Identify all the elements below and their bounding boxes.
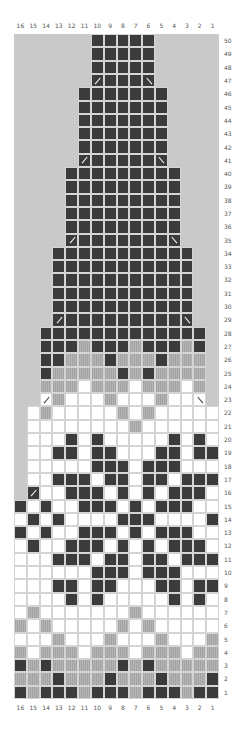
gray-stitch-cell: [40, 619, 53, 632]
no-stitch-cell: [193, 273, 206, 286]
no-stitch-cell: [206, 327, 219, 340]
gray-stitch-cell: [142, 380, 155, 393]
column-number: 2: [193, 702, 206, 714]
white-stitch-cell: [14, 553, 27, 566]
white-stitch-cell: [78, 513, 91, 526]
dark-stitch-cell: [129, 34, 142, 47]
no-stitch-cell: [14, 353, 27, 366]
white-stitch-cell: [104, 593, 117, 606]
dark-stitch-cell: [65, 579, 78, 592]
dark-stitch-cell: [193, 340, 206, 353]
dark-stitch-cell: [117, 61, 130, 74]
gray-stitch-cell: [52, 633, 65, 646]
column-number: 5: [155, 20, 168, 32]
white-stitch-cell: [142, 606, 155, 619]
white-stitch-cell: [206, 406, 219, 419]
dark-stitch-cell: [117, 273, 130, 286]
white-stitch-cell: [142, 393, 155, 406]
row-number: 4: [222, 646, 240, 659]
dark-stitch-cell: [117, 247, 130, 260]
gray-stitch-cell: [78, 367, 91, 380]
no-stitch-cell: [27, 313, 40, 326]
no-stitch-cell: [40, 167, 53, 180]
white-stitch-cell: [193, 566, 206, 579]
dark-stitch-cell: [91, 579, 104, 592]
column-number: 11: [78, 702, 91, 714]
white-stitch-cell: [181, 579, 194, 592]
white-stitch-cell: [52, 420, 65, 433]
white-stitch-cell: [40, 420, 53, 433]
dark-stitch-cell: [52, 273, 65, 286]
no-stitch-cell: [181, 47, 194, 60]
dark-stitch-cell: [91, 87, 104, 100]
column-number: 15: [27, 702, 40, 714]
no-stitch-cell: [65, 140, 78, 153]
dark-stitch-cell: [142, 473, 155, 486]
dark-stitch-cell: [129, 220, 142, 233]
dark-stitch-cell: [129, 87, 142, 100]
no-stitch-cell: [27, 140, 40, 153]
white-stitch-cell: [181, 420, 194, 433]
white-stitch-cell: [40, 579, 53, 592]
left-decrease-icon: [40, 393, 53, 406]
dark-stitch-cell: [52, 353, 65, 366]
no-stitch-cell: [168, 114, 181, 127]
dark-stitch-cell: [129, 74, 142, 87]
dark-stitch-cell: [155, 140, 168, 153]
dark-stitch-cell: [117, 220, 130, 233]
white-stitch-cell: [181, 513, 194, 526]
gray-stitch-cell: [104, 393, 117, 406]
white-stitch-cell: [40, 473, 53, 486]
dark-stitch-cell: [129, 140, 142, 153]
column-number: 9: [104, 702, 117, 714]
no-stitch-cell: [40, 154, 53, 167]
dark-stitch-cell: [129, 287, 142, 300]
dark-stitch-cell: [65, 553, 78, 566]
left-decrease-icon: [65, 234, 78, 247]
white-stitch-cell: [129, 633, 142, 646]
no-stitch-cell: [206, 140, 219, 153]
no-stitch-cell: [193, 180, 206, 193]
no-stitch-cell: [206, 287, 219, 300]
dark-stitch-cell: [65, 247, 78, 260]
dark-stitch-cell: [78, 526, 91, 539]
dark-stitch-cell: [104, 327, 117, 340]
no-stitch-cell: [168, 61, 181, 74]
dark-stitch-cell: [206, 672, 219, 685]
dark-stitch-cell: [168, 220, 181, 233]
dark-stitch-cell: [129, 61, 142, 74]
no-stitch-cell: [181, 74, 194, 87]
gray-stitch-cell: [117, 619, 130, 632]
no-stitch-cell: [52, 234, 65, 247]
column-number: 16: [14, 20, 27, 32]
dark-stitch-cell: [52, 287, 65, 300]
dark-stitch-cell: [91, 167, 104, 180]
column-number: 1: [206, 702, 219, 714]
white-stitch-cell: [206, 486, 219, 499]
dark-stitch-cell: [142, 127, 155, 140]
dark-stitch-cell: [91, 593, 104, 606]
no-stitch-cell: [52, 101, 65, 114]
white-stitch-cell: [129, 433, 142, 446]
white-stitch-cell: [104, 619, 117, 632]
white-stitch-cell: [78, 433, 91, 446]
gray-stitch-cell: [40, 380, 53, 393]
gray-stitch-cell: [155, 367, 168, 380]
dark-stitch-cell: [168, 300, 181, 313]
gray-stitch-cell: [168, 380, 181, 393]
no-stitch-cell: [52, 34, 65, 47]
white-stitch-cell: [155, 433, 168, 446]
dark-stitch-cell: [52, 327, 65, 340]
no-stitch-cell: [27, 34, 40, 47]
dark-stitch-cell: [142, 167, 155, 180]
dark-stitch-cell: [155, 313, 168, 326]
row-number: 33: [222, 260, 240, 273]
dark-stitch-cell: [142, 220, 155, 233]
row-number: 42: [222, 140, 240, 153]
dark-stitch-cell: [117, 473, 130, 486]
dark-stitch-cell: [129, 207, 142, 220]
dark-stitch-cell: [117, 327, 130, 340]
dark-stitch-cell: [206, 686, 219, 699]
gray-stitch-cell: [168, 367, 181, 380]
dark-stitch-cell: [117, 300, 130, 313]
